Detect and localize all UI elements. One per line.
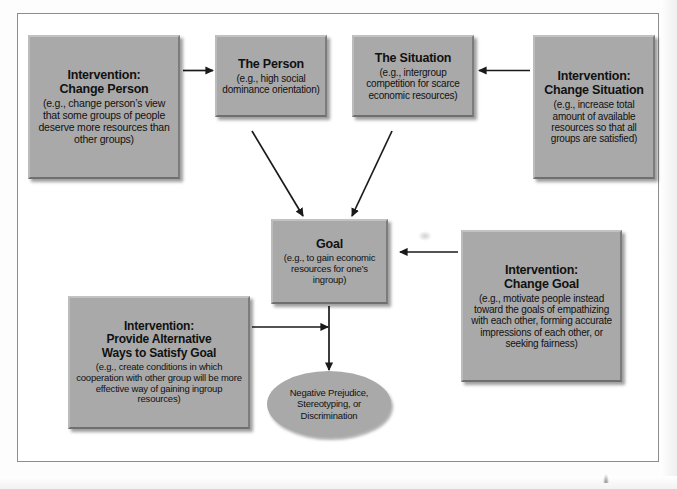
node-change-goal-title-line2: Change Goal [504,277,579,291]
node-change-person[interactable]: Intervention: Change Person (e.g., chang… [28,35,180,179]
node-change-person-subtext: (e.g., change person’s view that some gr… [35,98,173,146]
node-change-situation[interactable]: Intervention: Change Situation (e.g., in… [533,35,655,179]
node-change-goal-title-line1: Intervention: [505,263,578,277]
node-change-situation-title: Intervention: Change Situation [544,69,644,97]
diagram-page: Intervention: Change Person (e.g., chang… [0,0,677,489]
node-outcome-ellipse[interactable]: Negative Prejudice, Stereotyping, or Dis… [267,371,391,437]
node-goal-title: Goal [316,237,343,251]
node-provide-alternative-ways-subtext: (e.g., create conditions in which cooper… [75,362,243,405]
node-change-person-title-line2: Change Person [59,82,148,96]
node-provide-alternative-title-line2: Provide Alternative [106,332,211,346]
node-the-situation-subtext: (e.g., intergroup competition for scarce… [359,67,467,101]
page-artifact-mark [603,474,609,483]
page-edge-shading-bottom [0,476,677,489]
page-edge-shading-right [660,0,677,489]
node-goal[interactable]: Goal (e.g., to gain economic resources f… [271,219,388,304]
node-provide-alternative-ways[interactable]: Intervention: Provide Alternative Ways t… [68,296,250,429]
node-change-goal-subtext: (e.g., motivate people instead toward th… [468,293,615,350]
node-the-situation-title: The Situation [375,51,452,65]
node-the-person-subtext: (e.g., high social dominance orientation… [222,73,320,96]
node-provide-alternative-title-line3: Ways to Satisfy Goal [102,346,216,360]
node-outcome-text: Negative Prejudice, Stereotyping, or Dis… [267,387,391,421]
node-change-situation-title-line1: Intervention: [557,69,630,83]
node-provide-alternative-ways-title: Intervention: Provide Alternative Ways t… [102,320,216,360]
node-provide-alternative-title-line1: Intervention: [124,319,194,333]
node-the-person-title: The Person [238,57,304,71]
node-change-goal[interactable]: Intervention: Change Goal (e.g., motivat… [461,230,622,382]
node-change-person-title: Intervention: Change Person [59,68,148,96]
page-artifact-scuff [418,231,432,241]
node-change-person-title-line1: Intervention: [67,68,140,82]
node-change-situation-subtext: (e.g., increase total amount of availabl… [540,99,648,145]
node-the-person[interactable]: The Person (e.g., high social dominance … [215,35,327,117]
node-goal-subtext: (e.g., to gain economic resources for on… [278,253,381,285]
node-change-situation-title-line2: Change Situation [544,83,644,97]
node-the-situation[interactable]: The Situation (e.g., intergroup competit… [352,35,474,117]
node-change-goal-title: Intervention: Change Goal [504,263,579,291]
